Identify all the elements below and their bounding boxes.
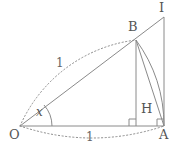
angle-label-x: x (36, 106, 43, 118)
arc-length-label-OB: 1 (56, 57, 64, 69)
point-label-A: A (159, 128, 168, 141)
point-label-O: O (9, 128, 20, 141)
right-angle-marker-H (129, 119, 136, 126)
geometry-figure: O A B H I 1 1 x (0, 0, 179, 155)
arc-length-label-OA: 1 (86, 131, 94, 143)
point-label-I: I (159, 1, 164, 14)
point-label-H: H (141, 102, 152, 115)
point-label-B: B (128, 20, 138, 33)
angle-arc-x (44, 105, 52, 126)
